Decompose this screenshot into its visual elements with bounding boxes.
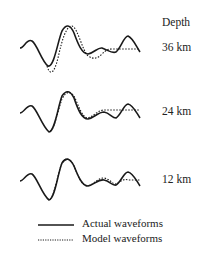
waveform-12km (20, 159, 140, 200)
waveform-24km (20, 92, 140, 132)
legend-model-label: Model waveforms (82, 232, 162, 244)
actual-waveform (20, 26, 140, 66)
waveform-36km (20, 26, 140, 72)
model-waveform (50, 93, 140, 131)
actual-waveform (20, 92, 140, 132)
legend-actual-label: Actual waveforms (82, 217, 163, 229)
model-waveform (50, 159, 140, 199)
waveform-diagram (0, 0, 211, 253)
